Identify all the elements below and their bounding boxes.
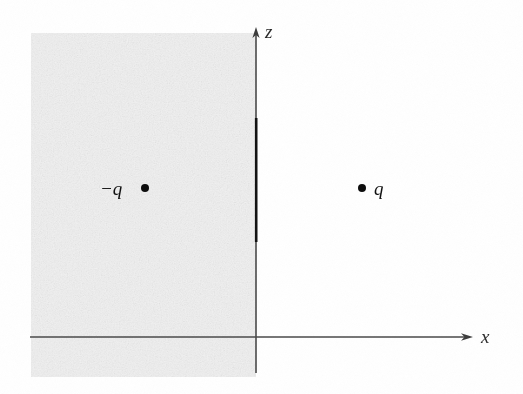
axes-layer — [0, 0, 523, 394]
image-charge-label: −q — [100, 179, 122, 198]
z-axis — [252, 27, 259, 373]
z-axis-label: z — [265, 22, 272, 41]
source-charge-dot — [358, 184, 366, 192]
x-axis — [30, 333, 473, 341]
image-charge-figure: z x −q q — [0, 0, 523, 394]
source-charge-label: q — [374, 179, 384, 198]
image-charge-dot — [141, 184, 149, 192]
x-axis-label: x — [481, 327, 489, 346]
